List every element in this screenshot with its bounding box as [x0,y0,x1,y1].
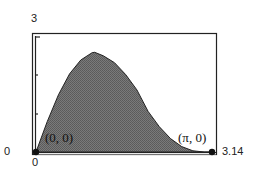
y-max-label: 3 [31,13,37,24]
pi-annotation: (π, 0) [178,131,206,144]
point-origin [33,149,39,155]
point-pi [209,149,215,155]
y-min-label: 0 [4,146,10,157]
chart-canvas [0,0,255,180]
origin-annotation: (0, 0) [45,131,73,144]
area-chart: 3 0 0 3.14 (0, 0) (π, 0) [0,0,255,180]
x-max-label: 3.14 [222,146,243,157]
x-min-label: 0 [32,157,38,168]
